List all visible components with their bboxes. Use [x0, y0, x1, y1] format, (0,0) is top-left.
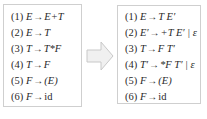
rule-number: (1)	[11, 11, 23, 22]
production-arrow-icon: →	[33, 73, 43, 89]
rule-lhs: T′	[140, 59, 148, 70]
rule-rhs: E+T	[44, 11, 63, 22]
rule-lhs: E	[26, 27, 32, 38]
rule-rhs: F T′	[158, 43, 175, 54]
production-arrow-icon: →	[147, 89, 157, 105]
production-arrow-icon: →	[33, 89, 43, 105]
rule-rhs: (E)	[44, 75, 57, 86]
rule-rhs: *F T′ | ε	[160, 59, 195, 70]
rule-lhs: T	[26, 59, 32, 70]
rule-number: (3)	[125, 43, 137, 54]
grammar-rule: (5) F→(E)	[11, 73, 81, 89]
rule-lhs: F	[140, 75, 146, 86]
rule-number: (3)	[11, 43, 23, 54]
production-arrow-icon: →	[150, 25, 160, 41]
rule-lhs: E	[26, 11, 32, 22]
production-arrow-icon: →	[33, 25, 43, 41]
rule-rhs: T E′	[158, 11, 175, 22]
grammar-rule: (6) F→id	[125, 89, 200, 105]
grammar-rule: (2) E→T	[11, 25, 81, 41]
grammar-rule: (4) T′→*F T′ | ε	[125, 57, 200, 73]
grammar-rule: (3) T→T*F	[11, 41, 81, 57]
rule-number: (5)	[125, 75, 137, 86]
rule-lhs: E	[140, 11, 146, 22]
transformed-grammar-box: (1) E→T E′ (2) E′→+T E′ | ε (3) T→F T′ (…	[117, 5, 201, 104]
grammar-rule: (3) T→F T′	[125, 41, 200, 57]
rule-number: (6)	[125, 91, 137, 102]
rule-rhs: (E)	[158, 75, 171, 86]
grammar-rule: (4) T→F	[11, 57, 81, 73]
production-arrow-icon: →	[33, 57, 43, 73]
rule-lhs: T	[140, 43, 146, 54]
grammar-rule: (6) F→id	[11, 89, 81, 105]
original-grammar-box: (1) E→E+T (2) E→T (3) T→T*F (4) T→F (5) …	[3, 4, 82, 107]
rule-rhs: F	[44, 59, 50, 70]
production-arrow-icon: →	[147, 9, 157, 25]
rule-rhs: T	[44, 27, 50, 38]
rule-number: (2)	[11, 27, 23, 38]
rule-rhs: id	[44, 91, 52, 102]
rule-lhs: F	[26, 91, 32, 102]
rule-number: (2)	[125, 27, 137, 38]
production-arrow-icon: →	[33, 41, 43, 57]
rule-lhs: E′	[140, 27, 149, 38]
rule-number: (1)	[125, 11, 137, 22]
rule-number: (4)	[11, 59, 23, 70]
grammar-rule: (1) E→E+T	[11, 9, 81, 25]
rule-lhs: F	[140, 91, 146, 102]
rule-rhs: id	[158, 91, 166, 102]
grammar-rule: (5) F→(E)	[125, 73, 200, 89]
rule-lhs: F	[26, 75, 32, 86]
grammar-rule: (1) E→T E′	[125, 9, 200, 25]
rule-number: (4)	[125, 59, 137, 70]
production-arrow-icon: →	[147, 73, 157, 89]
grammar-rule: (2) E′→+T E′ | ε	[125, 25, 200, 41]
rule-number: (6)	[11, 91, 23, 102]
production-arrow-icon: →	[147, 41, 157, 57]
rule-rhs: T*F	[44, 43, 62, 54]
rule-number: (5)	[11, 75, 23, 86]
rule-lhs: T	[26, 43, 32, 54]
rule-rhs: +T E′ | ε	[161, 27, 197, 38]
production-arrow-icon: →	[149, 57, 159, 73]
production-arrow-icon: →	[33, 9, 43, 25]
right-arrow-icon	[86, 40, 114, 72]
